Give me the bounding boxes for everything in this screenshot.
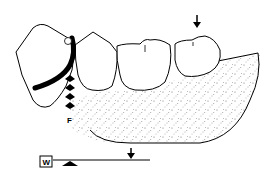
down-arrow-icon xyxy=(127,148,135,159)
force-label: F xyxy=(67,116,72,125)
molar-1 xyxy=(117,40,171,91)
dental-diagram: F W xyxy=(0,0,270,178)
anterior-tooth xyxy=(16,24,73,107)
premolar xyxy=(75,32,117,91)
rest-seat xyxy=(65,38,72,45)
up-arrow-icon xyxy=(62,161,78,166)
occlusal-arrow-icon xyxy=(193,15,201,28)
legend-box-label: W xyxy=(43,158,51,167)
